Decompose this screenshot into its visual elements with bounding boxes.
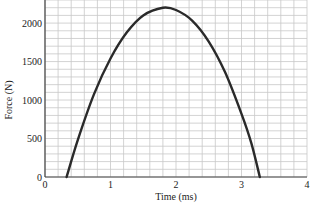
y-tick-label: 500 — [27, 133, 42, 144]
y-tick-label: 2000 — [22, 18, 42, 29]
x-axis-title: Time (ms) — [155, 191, 197, 203]
y-tick-label: 1000 — [22, 95, 42, 106]
x-tick-label: 4 — [305, 179, 310, 190]
x-axis-tick-labels: 01234 — [43, 179, 310, 190]
x-tick-label: 2 — [174, 179, 179, 190]
x-tick-label: 0 — [43, 179, 48, 190]
x-tick-label: 1 — [108, 179, 113, 190]
y-axis-title: Force (N) — [3, 80, 15, 119]
y-tick-label: 1500 — [22, 56, 42, 67]
force-time-chart: 01234 0500100015002000 Time (ms) Force (… — [0, 0, 316, 207]
y-axis-tick-labels: 0500100015002000 — [22, 18, 42, 183]
grid-lines — [45, 0, 307, 177]
x-tick-label: 3 — [239, 179, 244, 190]
y-tick-label: 0 — [37, 172, 42, 183]
